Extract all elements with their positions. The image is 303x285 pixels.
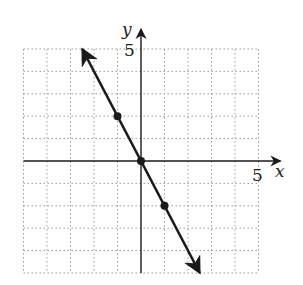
y-tick-label-5: 5 — [124, 42, 135, 59]
x-tick-label-5: 5 — [252, 167, 263, 184]
data-point — [137, 157, 145, 165]
axes — [24, 29, 281, 273]
y-axis-label: y — [122, 21, 132, 38]
x-axis-label: x — [275, 163, 285, 180]
data-point — [114, 112, 122, 120]
data-point — [161, 202, 169, 210]
coordinate-plane — [0, 0, 303, 285]
